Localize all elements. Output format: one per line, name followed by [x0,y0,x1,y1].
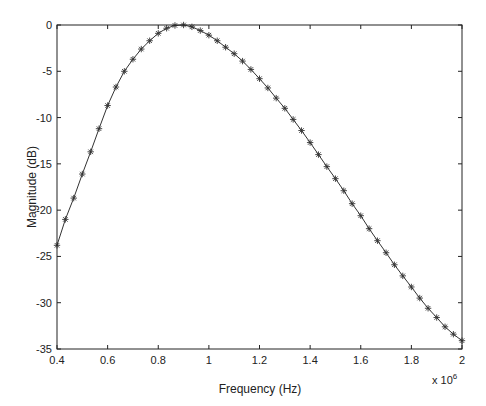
asterisk-marker [408,284,414,290]
asterisk-marker [146,38,152,44]
asterisk-marker [358,212,364,218]
asterisk-marker [222,44,228,50]
x-tick-label: 0.6 [100,354,115,366]
asterisk-marker [324,163,330,169]
asterisk-marker [121,68,127,74]
asterisk-marker [450,331,456,337]
asterisk-marker [282,105,288,111]
asterisk-marker [231,50,237,56]
asterisk-marker [71,195,77,201]
y-tick-label: -25 [36,250,52,262]
x-tick-label: 0.8 [151,354,166,366]
y-tick-label: -35 [36,343,52,355]
x-tick-label: 1 [206,354,212,366]
asterisk-marker [130,56,136,62]
asterisk-marker [383,250,389,256]
asterisk-marker [307,139,313,145]
asterisk-marker [290,116,296,122]
asterisk-marker [273,95,279,101]
x-tick-label: 1.2 [252,354,267,366]
y-tick-label: 0 [46,19,52,31]
asterisk-marker [349,200,355,206]
x-tick-label: 2 [459,354,465,366]
y-axis-label: Magnitude (dB) [25,146,39,228]
asterisk-marker [214,38,220,44]
asterisk-marker [442,324,448,330]
asterisk-marker [425,305,431,311]
y-tick-label: -5 [42,65,52,77]
asterisk-marker [113,84,119,90]
asterisk-marker [315,151,321,157]
x-tick-label: 1.4 [302,354,317,366]
asterisk-marker [62,216,68,222]
x-axis-label: Frequency (Hz) [219,382,302,396]
asterisk-marker [248,66,254,72]
asterisk-marker [206,32,212,38]
asterisk-marker [374,237,380,243]
asterisk-marker [391,262,397,268]
asterisk-marker [341,188,347,194]
asterisk-marker [197,27,203,33]
x-tick-label: 1.8 [404,354,419,366]
y-tick-label: -10 [36,112,52,124]
asterisk-marker [400,273,406,279]
x-tick-label: 1.6 [353,354,368,366]
asterisk-marker [433,314,439,320]
x-tick-label: 0.4 [49,354,64,366]
y-tick-label: -30 [36,297,52,309]
chart-figure: 0.40.60.811.21.41.61.820-5-10-15-20-25-3… [0,0,486,406]
asterisk-marker [298,127,304,133]
asterisk-marker [138,46,144,52]
asterisk-marker [366,225,372,231]
asterisk-marker [417,295,423,301]
asterisk-marker [79,171,85,177]
asterisk-marker [155,30,161,36]
asterisk-marker [163,25,169,31]
asterisk-marker [104,102,110,108]
asterisk-marker [332,175,338,181]
asterisk-marker [239,58,245,64]
magnitude-plot: 0.40.60.811.21.41.61.820-5-10-15-20-25-3… [0,0,486,406]
asterisk-marker [96,125,102,131]
asterisk-marker [265,85,271,91]
asterisk-marker [256,75,262,81]
asterisk-marker [87,149,93,155]
